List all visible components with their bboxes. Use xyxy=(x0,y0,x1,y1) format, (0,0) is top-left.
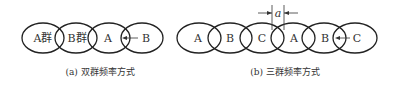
label-b-c1: C xyxy=(258,32,266,45)
label-b-a1: A xyxy=(193,32,203,45)
frequency-scheme-diagram: A群 B群 A B (a) 双群频率方式 A B C A B C xyxy=(0,0,394,86)
dimension-label: a xyxy=(275,7,282,20)
label-a: A xyxy=(103,32,113,45)
label-b-a2: A xyxy=(289,32,299,45)
caption-b: (b) 三群频率方式 xyxy=(250,66,320,77)
dimension-a: a xyxy=(258,5,298,30)
label-b-b1: B xyxy=(226,32,234,45)
label-a-group: A群 xyxy=(33,31,53,45)
label-b-group: B群 xyxy=(67,31,86,45)
label-b-c2: C xyxy=(353,32,361,45)
panel-a: A群 B群 A B (a) 双群频率方式 xyxy=(22,23,163,77)
label-b-b2: B xyxy=(321,32,329,45)
caption-a: (a) 双群频率方式 xyxy=(65,66,134,77)
arrow-icon xyxy=(335,36,350,40)
label-b: B xyxy=(142,32,150,45)
panel-b: A B C A B C a (b) 三群频率方式 xyxy=(177,5,377,77)
